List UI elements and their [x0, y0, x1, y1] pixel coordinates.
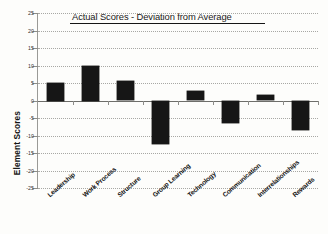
bar-leadership	[47, 83, 63, 101]
y-axis-tick-label: 0	[0, 98, 34, 104]
y-axis-tick-label: -20	[0, 168, 34, 174]
y-axis-tick-label: 20	[0, 28, 34, 34]
y-axis-tick-label: -5	[0, 115, 34, 121]
y-axis-tick-label: -10	[0, 133, 34, 139]
y-axis-tick-label: 25	[0, 10, 34, 16]
plot-area	[38, 13, 318, 188]
y-axis-tick-label: -25	[0, 185, 34, 191]
bar-interrelationships	[257, 95, 273, 101]
x-axis-tick	[318, 101, 319, 105]
bar-communication	[222, 101, 238, 124]
y-axis-tick-label: -15	[0, 150, 34, 156]
y-axis-tick-label: 10	[0, 63, 34, 69]
y-axis-title: Element Scores	[12, 88, 22, 198]
bar-rewards	[292, 101, 308, 131]
bars-layer	[38, 13, 318, 188]
chart-container: Actual Scores - Deviation from Average E…	[0, 0, 328, 234]
bar-group-learning	[152, 101, 168, 145]
bar-structure	[117, 81, 133, 101]
bar-work-process	[82, 66, 98, 101]
gridline	[38, 188, 318, 189]
y-axis-tick-label: 5	[0, 80, 34, 86]
y-axis-tick-label: 15	[0, 45, 34, 51]
bar-technology	[187, 91, 203, 100]
